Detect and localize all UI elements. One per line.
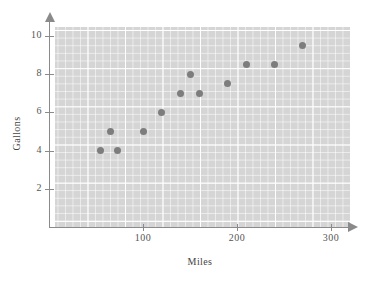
y-tick-mark	[45, 112, 54, 113]
y-tick-label: 2	[20, 182, 42, 193]
data-point	[196, 90, 203, 97]
x-tick-label: 300	[311, 232, 351, 243]
data-point	[107, 128, 114, 135]
x-axis-arrowhead-icon	[348, 222, 358, 232]
x-tick-mark	[331, 224, 332, 231]
data-point	[243, 61, 250, 68]
x-axis-line	[49, 227, 349, 228]
y-tick-label: 6	[20, 105, 42, 116]
y-tick-mark	[45, 151, 54, 152]
x-tick-label: 100	[123, 232, 163, 243]
data-point	[140, 128, 147, 135]
y-tick-mark	[45, 36, 54, 37]
y-tick-label: 10	[20, 29, 42, 40]
y-axis-line	[49, 22, 50, 228]
x-tick-label: 200	[217, 232, 257, 243]
y-tick-label: 8	[20, 67, 42, 78]
x-tick-mark	[237, 224, 238, 231]
y-tick-mark	[45, 74, 54, 75]
y-axis-arrowhead-icon	[45, 12, 55, 22]
y-axis-title: Gallons	[11, 104, 22, 164]
x-tick-mark	[143, 224, 144, 231]
plot-area-grid	[55, 27, 350, 227]
x-axis-title: Miles	[145, 256, 255, 267]
y-tick-label: 4	[20, 144, 42, 155]
y-tick-mark	[45, 189, 54, 190]
scatter-plot-figure: 100200300 246810 Miles Gallons	[0, 0, 385, 285]
data-point	[187, 71, 194, 78]
data-point	[177, 90, 184, 97]
